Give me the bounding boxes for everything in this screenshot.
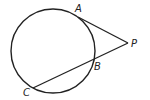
circle — [11, 9, 95, 93]
label-point-c: C — [23, 87, 30, 98]
label-point-b: B — [94, 61, 101, 72]
label-point-a: A — [74, 3, 82, 14]
secant-segment-pc — [33, 43, 128, 88]
label-point-p: P — [131, 38, 138, 49]
geometry-diagram: A P B C — [0, 0, 150, 100]
tangent-segment-pa — [78, 17, 128, 43]
